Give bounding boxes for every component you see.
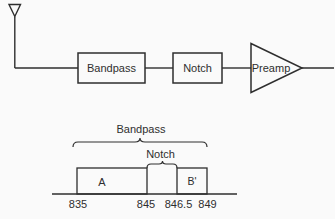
band-a-label: A (98, 176, 106, 188)
tick-845: 845 (137, 198, 155, 210)
bandpass-block-label: Bandpass (87, 62, 136, 74)
bandpass-brace-group: Bandpass (73, 123, 207, 147)
tick-846-5: 846.5 (165, 198, 193, 210)
notch-filter-block: Notch (173, 53, 222, 83)
antenna-icon (9, 5, 21, 69)
bandpass-brace (73, 138, 207, 147)
receiver-block-diagram: Bandpass Notch Preamp Bandpass Notch A (0, 0, 335, 219)
notch-block-label: Notch (183, 62, 212, 74)
tick-835: 835 (69, 198, 87, 210)
band-a-rect (77, 168, 147, 194)
bandpass-filter-block: Bandpass (78, 53, 145, 83)
axis-tick-labels: 835 845 846.5 849 (69, 198, 217, 210)
band-b-group: B' (177, 168, 207, 194)
diagram-svg: Bandpass Notch Preamp Bandpass Notch A (0, 0, 335, 219)
tick-849: 849 (198, 198, 216, 210)
notch-brace-group: Notch (146, 148, 177, 168)
band-a-group: A (77, 168, 147, 194)
preamp-amplifier-block: Preamp (251, 44, 302, 93)
notch-brace-label: Notch (146, 148, 175, 160)
band-b-label: B' (187, 175, 196, 187)
notch-brace (147, 161, 177, 168)
preamp-block-label: Preamp (252, 62, 291, 74)
bandpass-brace-label: Bandpass (117, 123, 166, 135)
